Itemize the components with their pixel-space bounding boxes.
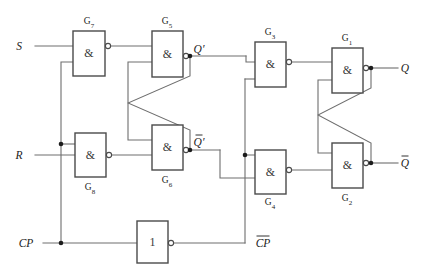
inversion-bubble-G2 xyxy=(363,160,368,165)
gate-symbol-G8: & xyxy=(86,148,96,162)
gate-symbol-G5: & xyxy=(163,47,173,61)
gate-G1: &G1 xyxy=(332,33,369,93)
inversion-bubble-G8 xyxy=(106,152,111,157)
input-label-CP-text: CP xyxy=(19,237,34,249)
gate-G3: &G3 xyxy=(255,27,292,87)
gate-symbol-INV: 1 xyxy=(150,235,156,249)
internal-label-CPbar: CP xyxy=(256,236,271,249)
gate-INV: 1 xyxy=(137,221,174,263)
input-label-R: R xyxy=(14,149,22,161)
inversion-bubble-INV xyxy=(168,240,173,245)
gate-symbol-G4: & xyxy=(266,165,276,179)
inversion-bubble-G1 xyxy=(363,65,368,70)
internal-label-Qp-text: Q′ xyxy=(194,43,205,55)
gate-symbol-G7: & xyxy=(84,46,94,60)
gate-name-label-G6: G6 xyxy=(162,175,173,189)
wire-cp-to-g7 xyxy=(61,62,73,243)
input-label-S-text: S xyxy=(16,40,22,52)
gate-name-label-G7: G7 xyxy=(84,16,95,30)
internal-label-Qbarp-text: Q′ xyxy=(194,136,205,148)
gate-G2: &G2 xyxy=(332,143,369,207)
output-label-Q-text: Q xyxy=(401,62,410,74)
output-label-Q: Q xyxy=(401,62,410,74)
junction-dot xyxy=(188,148,193,153)
wire-g5-to-g3 xyxy=(246,56,255,62)
junction-dot xyxy=(369,161,374,166)
gate-name-label-G3: G3 xyxy=(265,27,276,41)
gates-layer: &G7&G5&G3&G1&G8&G6&G4&G21 xyxy=(73,16,369,263)
gate-G4: &G4 xyxy=(255,150,292,211)
output-label-Qbar-text: Q xyxy=(401,157,410,169)
gate-name-label-G2: G2 xyxy=(342,193,353,207)
circuit-canvas: &G7&G5&G3&G1&G8&G6&G4&G21 SRCPQQQ′Q′CP xyxy=(0,0,424,274)
inversion-bubble-G3 xyxy=(286,59,291,64)
inversion-bubble-G7 xyxy=(105,43,110,48)
output-label-Qbar: Q xyxy=(401,156,410,169)
gate-symbol-G1: & xyxy=(343,63,353,77)
input-label-S: S xyxy=(16,40,22,52)
junction-dot xyxy=(188,54,193,59)
junction-dot xyxy=(243,153,248,158)
logic-circuit-diagram: &G7&G5&G3&G1&G8&G6&G4&G21 SRCPQQQ′Q′CP xyxy=(0,0,424,274)
gate-G7: &G7 xyxy=(73,16,111,76)
gate-name-label-G4: G4 xyxy=(265,197,276,211)
input-label-CP: CP xyxy=(19,237,34,249)
gate-G6: &G6 xyxy=(152,125,189,189)
gate-symbol-G3: & xyxy=(266,57,276,71)
wire-cpbar-up xyxy=(245,155,255,243)
internal-label-Qbarp: Q′ xyxy=(194,135,205,148)
gate-symbol-G6: & xyxy=(163,140,173,154)
inversion-bubble-G4 xyxy=(286,167,291,172)
junction-dot xyxy=(369,66,374,71)
gate-symbol-G2: & xyxy=(343,158,353,172)
input-label-R-text: R xyxy=(14,149,22,161)
wire-g6-to-g4 xyxy=(220,150,255,178)
junction-dot xyxy=(59,142,64,147)
internal-label-Qp: Q′ xyxy=(194,43,205,55)
internal-label-CPbar-text: CP xyxy=(256,237,271,249)
gate-name-label-G5: G5 xyxy=(162,16,173,30)
gate-G8: &G8 xyxy=(75,133,112,196)
gate-G5: &G5 xyxy=(152,16,189,77)
junction-dot xyxy=(59,241,64,246)
gate-name-label-G8: G8 xyxy=(85,182,96,196)
gate-name-label-G1: G1 xyxy=(342,33,353,47)
